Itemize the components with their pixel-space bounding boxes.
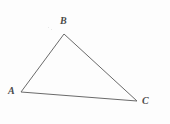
scan-speck: [51, 29, 52, 30]
vertex-label-c: C: [142, 96, 149, 106]
triangle-diagram: A B C: [0, 0, 170, 124]
vertex-label-a: A: [8, 86, 15, 96]
triangle-outline: [21, 34, 137, 101]
vertex-label-b: B: [60, 16, 67, 26]
scan-speck: [48, 27, 49, 28]
